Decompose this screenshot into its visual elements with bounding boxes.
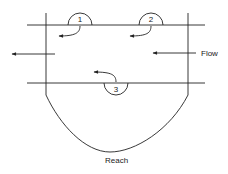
eddy-3-return-arrow bbox=[94, 72, 116, 82]
eddy-2-return-arrow bbox=[130, 26, 151, 36]
reach-label: Reach bbox=[105, 156, 128, 165]
eddy-1-return-arrow bbox=[59, 26, 80, 36]
eddy-3-label: 3 bbox=[114, 85, 119, 94]
reach-curve bbox=[46, 95, 188, 152]
reach-eddy-diagram: 1 2 3 Flow Reach bbox=[0, 0, 228, 174]
eddy-1-label: 1 bbox=[78, 15, 83, 24]
flow-label: Flow bbox=[201, 49, 218, 58]
eddy-2-label: 2 bbox=[149, 15, 154, 24]
